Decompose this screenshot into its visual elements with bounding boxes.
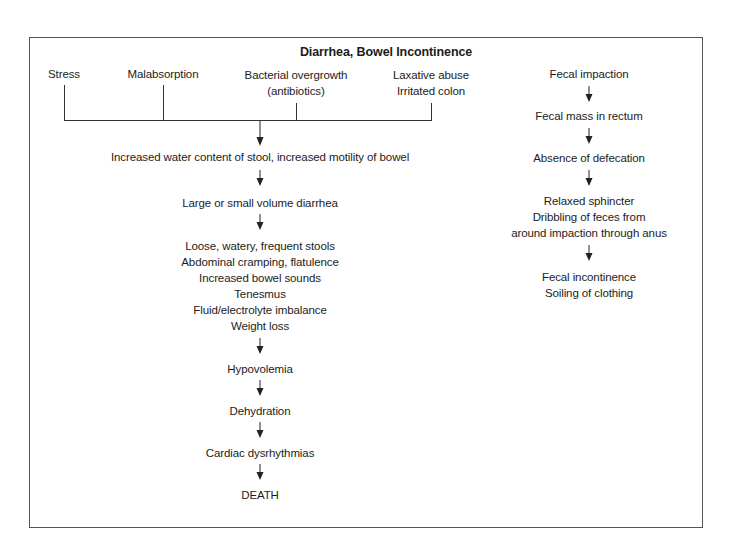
symptom-line: Abdominal cramping, flatulence <box>181 254 338 270</box>
step-relaxed-sphincter: Relaxed sphincter Dribbling of feces fro… <box>511 193 667 241</box>
step-absence-defecation: Absence of defecation <box>533 151 645 166</box>
down-arrow-icon <box>255 464 265 480</box>
down-arrow-icon <box>584 128 594 144</box>
connector-line <box>163 85 164 121</box>
cause-line: (antibiotics) <box>245 83 348 99</box>
step-increased-water-content: Increased water content of stool, increa… <box>111 150 409 165</box>
symptom-line: Tenesmus <box>181 286 338 302</box>
cause-malabsorption: Malabsorption <box>128 67 199 82</box>
step-fecal-mass: Fecal mass in rectum <box>535 109 642 124</box>
down-arrow-icon <box>255 338 265 354</box>
step-line: Dribbling of feces from <box>511 209 667 225</box>
down-arrow-icon <box>255 422 265 438</box>
step-volume-diarrhea: Large or small volume diarrhea <box>182 196 338 211</box>
cause-bacterial-overgrowth: Bacterial overgrowth (antibiotics) <box>245 67 348 99</box>
symptom-line: Fluid/electrolyte imbalance <box>181 302 338 318</box>
step-fecal-impaction: Fecal impaction <box>549 67 628 82</box>
step-line: Fecal incontinence <box>542 269 636 285</box>
cause-line: Bacterial overgrowth <box>245 67 348 83</box>
step-line: Soiling of clothing <box>542 285 636 301</box>
cause-laxative-abuse: Laxative abuse Irritated colon <box>393 67 469 99</box>
cause-stress: Stress <box>48 67 80 82</box>
step-death: DEATH <box>241 488 279 503</box>
symptom-line: Weight loss <box>181 318 338 334</box>
step-hypovolemia: Hypovolemia <box>227 362 292 377</box>
connector-line <box>431 103 432 121</box>
step-fecal-incontinence: Fecal incontinence Soiling of clothing <box>542 269 636 301</box>
bracket-line <box>64 120 432 121</box>
connector-line <box>64 85 65 121</box>
down-arrow-icon <box>255 380 265 396</box>
down-arrow-icon <box>584 86 594 102</box>
symptom-line: Increased bowel sounds <box>181 270 338 286</box>
cause-line: Irritated colon <box>393 83 469 99</box>
down-arrow-icon <box>584 170 594 186</box>
down-arrow-icon <box>584 245 594 261</box>
step-line: Relaxed sphincter <box>511 193 667 209</box>
diagram-title: Diarrhea, Bowel Incontinence <box>300 45 472 60</box>
step-cardiac-dysrhythmias: Cardiac dysrhythmias <box>206 446 315 461</box>
step-dehydration: Dehydration <box>230 404 291 419</box>
down-arrow-icon <box>255 121 265 147</box>
cause-line: Laxative abuse <box>393 67 469 83</box>
step-symptoms: Loose, watery, frequent stools Abdominal… <box>181 238 338 334</box>
down-arrow-icon <box>255 214 265 230</box>
down-arrow-icon <box>255 170 265 186</box>
connector-line <box>296 103 297 121</box>
symptom-line: Loose, watery, frequent stools <box>181 238 338 254</box>
step-line: around impaction through anus <box>511 225 667 241</box>
